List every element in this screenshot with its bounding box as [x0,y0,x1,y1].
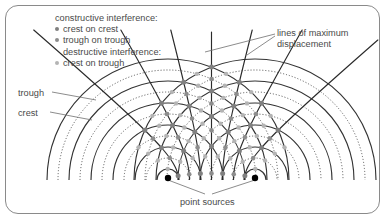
dot-crest-on-trough [255,134,259,138]
dot-crest-on-crest [209,65,214,70]
dot-crest-on-trough [191,156,195,160]
dot-trough-on-trough [176,135,181,140]
dot-trough-on-trough [268,136,273,141]
bullet-trough-on-trough-icon [55,38,59,42]
dot-trough-on-trough [184,92,189,97]
dot-trough-on-trough [209,171,214,176]
legend-item-crest-on-trough-label: crest on trough [63,58,124,68]
leader-point-source-left [168,180,205,194]
leader-lmd-right [247,36,275,55]
dot-crest-on-trough [199,108,203,112]
dot-crest-on-crest [259,145,264,150]
dot-crest-on-trough [157,123,161,127]
dot-trough-on-trough [231,172,236,177]
dot-crest-on-trough [241,160,245,164]
dot-crest-on-trough [146,151,150,155]
dot-trough-on-trough [209,77,214,82]
dot-crest-on-trough [217,136,221,140]
legend-item-crest-on-crest: crest on crest [55,24,161,35]
dot-crest-on-trough [178,113,182,117]
dot-crest-on-trough [232,139,236,143]
dot-crest-on-crest [198,171,203,176]
dot-trough-on-trough [209,101,214,106]
dot-crest-on-trough [241,113,245,117]
dot-crest-on-trough [164,134,168,138]
dot-crest-on-trough [216,154,220,158]
label-lines-of-maximum-displacement: lines of maximum displacement [277,28,348,50]
dot-crest-on-crest [209,89,214,94]
dot-trough-on-trough [187,172,192,177]
dot-crest-on-trough [261,123,265,127]
dot-crest-on-crest [181,80,186,85]
lmd-line2: displacement [277,39,348,50]
dot-trough-on-trough [190,116,195,121]
legend-item-trough-on-trough: trough on trough [55,35,161,46]
dot-crest-on-crest [181,148,186,153]
dot-crest-on-crest [187,103,192,108]
dot-crest-on-trough [170,90,174,94]
legend-item-crest-on-trough: crest on trough [55,58,161,69]
dot-crest-on-crest [237,148,242,153]
dot-crest-on-trough [228,156,232,160]
dot-trough-on-trough [223,145,228,150]
point-source-right-dot [252,175,258,181]
legend-item-trough-on-trough-label: trough on trough [63,35,130,45]
dot-crest-on-trough [171,145,175,149]
dot-crest-on-trough [263,158,267,162]
label-point-sources: point sources [180,197,235,208]
dot-crest-on-trough [197,96,201,100]
dot-crest-on-trough [220,108,224,112]
dot-crest-on-crest [170,123,175,128]
dot-crest-on-trough [268,114,272,118]
dot-trough-on-trough [254,112,259,117]
dot-crest-on-trough [249,90,253,94]
dot-crest-on-trough [195,72,199,76]
dot-crest-on-trough [253,167,257,171]
bullet-crest-on-trough-icon [55,61,59,65]
dot-trough-on-trough [251,156,256,161]
dot-trough-on-trough [165,112,170,117]
leader-point-source-right [212,180,255,194]
legend-heading-constructive: constructive interference: [55,13,161,24]
dot-crest-on-crest [259,101,264,106]
dot-crest-on-trough [203,154,207,158]
line-of-maximum-displacement-order2 [234,30,303,180]
leader-crest [50,112,92,120]
dot-trough-on-trough [195,145,200,150]
dot-crest-on-trough [223,84,227,88]
dot-crest-on-crest [237,80,242,85]
dot-crest-on-crest [231,103,236,108]
dot-crest-on-crest [276,128,281,133]
dot-crest-on-trough [186,139,190,143]
dot-crest-on-crest [209,144,214,149]
legend-item-crest-on-crest-label: crest on crest [63,24,118,34]
dot-crest-on-trough [196,84,200,88]
dot-crest-on-crest [226,129,231,134]
dot-trough-on-trough [243,135,248,140]
dot-trough-on-trough [234,92,239,97]
dot-crest-on-trough [248,145,252,149]
dot-crest-on-trough [221,96,225,100]
dot-crest-on-trough [156,158,160,162]
dot-crest-on-trough [174,101,178,105]
dot-trough-on-trough [229,116,234,121]
dot-trough-on-trough [209,128,214,133]
dot-crest-on-trough [236,125,240,129]
dot-crest-on-trough [202,136,206,140]
lmd-line1: lines of maximum [277,28,348,39]
dot-crest-on-trough [136,145,140,149]
dot-crest-on-trough [273,151,277,155]
dot-crest-on-crest [248,123,253,128]
dot-crest-on-trough [165,167,169,171]
dot-crest-on-crest [159,101,164,106]
legend: constructive interference: crest on cres… [55,13,161,69]
dot-crest-on-trough [282,145,286,149]
dot-crest-on-trough [178,160,182,164]
dot-crest-on-crest [142,128,147,133]
legend-heading-destructive: destructive interference: [55,47,161,58]
dot-crest-on-trough [224,72,228,76]
dot-crest-on-crest [242,173,247,178]
dot-crest-on-trough [182,125,186,129]
dot-crest-on-crest [176,173,181,178]
dot-crest-on-crest [159,145,164,150]
